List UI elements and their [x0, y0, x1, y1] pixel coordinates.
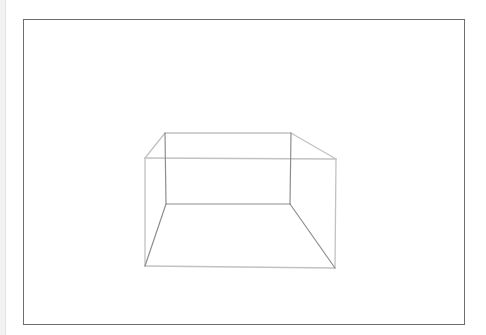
top-left-diagonal: [145, 133, 165, 158]
box-dark-edges: [145, 133, 335, 268]
front-top-edge: [145, 158, 336, 159]
front-bottom-edge: [145, 266, 335, 268]
front-right-edge: [335, 159, 336, 268]
drawing-frame: [24, 20, 465, 325]
bottom-left-diagonal: [145, 204, 166, 266]
back-right-edge: [290, 133, 291, 204]
bottom-right-diagonal: [290, 204, 335, 268]
box-drawing: [0, 0, 486, 335]
top-right-diagonal: [291, 133, 336, 159]
box-light-edges: [145, 133, 336, 268]
back-left-edge: [165, 133, 166, 204]
